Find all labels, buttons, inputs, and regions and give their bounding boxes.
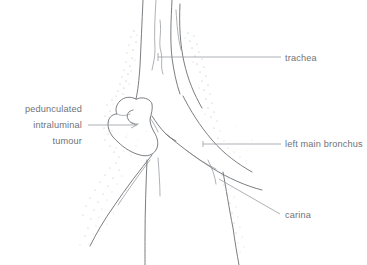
- carina-ridge: [152, 116, 176, 141]
- medical-illustration-figure: trachea left main bronchus carina pedunc…: [0, 0, 367, 265]
- stipple-left-lower: [80, 163, 127, 246]
- central-lower-inner-line: [158, 158, 160, 196]
- trachea-right-wall: [180, 4, 202, 108]
- labels-group: trachea left main bronchus carina pedunc…: [25, 53, 363, 220]
- stipple-left-upper: [116, 30, 138, 96]
- tumour-outline: [108, 97, 158, 156]
- label-tumour-line-3: tumour: [53, 136, 83, 146]
- trachea-left-wall: [136, 0, 143, 99]
- trachea-mid-lumen-line: [160, 20, 163, 74]
- stipple-right-lower: [222, 175, 245, 253]
- trachea-right-inner-line: [171, 0, 180, 94]
- stipple-right-upper: [185, 32, 247, 161]
- trachea-left-inner-line: [152, 0, 156, 70]
- central-lower-airway-line: [145, 160, 147, 265]
- leader-lines-group: [88, 53, 281, 214]
- left-main-bronchus-inner-line: [186, 150, 216, 169]
- tumour-texture-dot: [127, 134, 128, 135]
- label-trachea: trachea: [285, 53, 317, 63]
- trachea-group: [136, 0, 202, 108]
- leader-line-carina: [219, 179, 280, 214]
- left-main-bronchus-upper-wall: [183, 96, 252, 172]
- tumour-lobule-line: [117, 114, 130, 116]
- tumour-texture-dot: [146, 131, 147, 132]
- pedunculated-tumour-group: [108, 97, 158, 156]
- bronchi-group: [90, 96, 262, 265]
- illustration-canvas: trachea left main bronchus carina pedunc…: [0, 0, 367, 265]
- label-left-main-bronchus: left main bronchus: [285, 139, 363, 149]
- label-carina: carina: [285, 210, 312, 220]
- tumour-texture-dot: [138, 140, 139, 141]
- label-tumour-line-1: pedunculated: [25, 104, 82, 114]
- bronchus-branch-stub: [208, 160, 216, 184]
- tumour-internal-curl: [127, 110, 138, 124]
- stipple-sparse-right: [105, 105, 253, 151]
- label-tumour-line-2: intraluminal: [33, 120, 82, 130]
- left-descending-inner-line: [118, 160, 150, 205]
